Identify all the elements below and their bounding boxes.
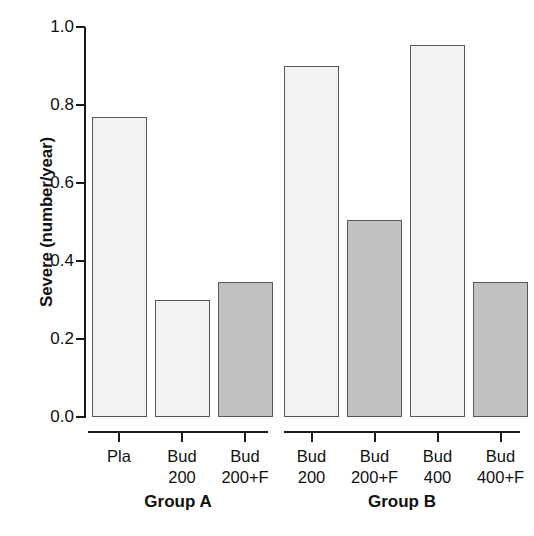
x-axis-line bbox=[284, 431, 520, 433]
x-axis-tick-mark bbox=[118, 433, 120, 442]
bar bbox=[410, 45, 465, 417]
x-axis-tick-mark bbox=[311, 433, 313, 442]
x-axis-tick-mark bbox=[181, 433, 183, 442]
bar bbox=[347, 220, 402, 417]
x-axis-tick-mark bbox=[500, 433, 502, 442]
x-axis-tick-mark bbox=[374, 433, 376, 442]
x-axis-tick-mark bbox=[244, 433, 246, 442]
bar bbox=[155, 300, 210, 417]
bar bbox=[218, 282, 273, 417]
bar bbox=[92, 117, 147, 417]
x-axis-tick-mark bbox=[437, 433, 439, 442]
bar bbox=[473, 282, 528, 417]
group-label: Group B bbox=[322, 492, 482, 512]
x-axis-tick-label-line1: Bud bbox=[456, 446, 534, 467]
group-label: Group A bbox=[98, 492, 258, 512]
x-axis-line bbox=[88, 431, 268, 433]
x-axis-tick-label-line2: 400+F bbox=[456, 467, 534, 488]
bar bbox=[284, 66, 339, 417]
bar-chart: Severe (number/year) 0.00.20.40.60.81.0 … bbox=[0, 0, 534, 536]
x-axis-tick-label: Bud400+F bbox=[456, 446, 534, 488]
